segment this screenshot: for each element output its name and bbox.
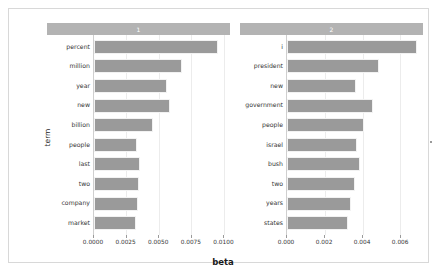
y-tick-label: israel: [240, 137, 286, 153]
x-axis: 0.00000.00250.00500.00750.0100: [93, 235, 230, 251]
bar: [287, 40, 417, 54]
x-tick-label: 0.0075: [181, 239, 201, 245]
bar: [94, 79, 167, 93]
bar-row: [94, 39, 230, 55]
x-tick-mark: [223, 235, 224, 238]
bar: [94, 138, 137, 152]
bar-series: [287, 35, 423, 235]
bar-row: [287, 196, 423, 212]
bar-row: [287, 78, 423, 94]
bar: [94, 118, 153, 132]
bar-row: [94, 58, 230, 74]
x-tick-mark: [158, 235, 159, 238]
x-tick-label: 0.004: [354, 239, 371, 245]
bar: [287, 59, 379, 73]
x-tick-label: 0.0050: [148, 239, 168, 245]
facet-panel-2: 2ipresidentnewgovernmentpeopleisraelbush…: [240, 23, 423, 251]
x-tick-mark: [362, 235, 363, 238]
bar: [94, 157, 140, 171]
bar: [287, 138, 357, 152]
bar: [287, 216, 348, 230]
bar-row: [287, 117, 423, 133]
y-tick-label: president: [240, 58, 286, 74]
bar: [287, 99, 373, 113]
page-frame: term 1percentmillionyearnewbillionpeople…: [8, 8, 429, 263]
bar-row: [287, 176, 423, 192]
y-tick-label: people: [47, 137, 93, 153]
bar: [287, 157, 360, 171]
x-tick-label: 0.0000: [83, 239, 103, 245]
x-tick-label: 0.0100: [213, 239, 233, 245]
bar-row: [287, 215, 423, 231]
bar-row: [287, 39, 423, 55]
bar-row: [287, 137, 423, 153]
x-axis: 0.0000.0020.0040.006: [286, 235, 423, 251]
y-tick-label: billion: [47, 117, 93, 133]
x-tick-mark: [126, 235, 127, 238]
y-tick-label: million: [47, 58, 93, 74]
bar-row: [94, 117, 230, 133]
bar-series: [94, 35, 230, 235]
bar-row: [94, 196, 230, 212]
chart-root: term 1percentmillionyearnewbillionpeople…: [0, 0, 441, 280]
y-tick-label: market: [47, 215, 93, 231]
x-tick-mark: [286, 235, 287, 238]
bar-row: [94, 215, 230, 231]
bar-row: [94, 78, 230, 94]
x-tick-mark: [324, 235, 325, 238]
y-tick-label: new: [47, 98, 93, 114]
y-tick-label: percent: [47, 39, 93, 55]
y-tick-label: i: [240, 39, 286, 55]
bar-row: [94, 176, 230, 192]
facet-body: percentmillionyearnewbillionpeoplelasttw…: [47, 35, 230, 235]
bar: [94, 197, 138, 211]
y-tick-label: government: [240, 98, 286, 114]
x-tick-label: 0.002: [316, 239, 333, 245]
bar-row: [94, 98, 230, 114]
decorative-dot: [430, 141, 432, 143]
bar: [287, 118, 364, 132]
facet-container: 1percentmillionyearnewbillionpeoplelastt…: [47, 23, 423, 251]
bar: [287, 177, 355, 191]
x-tick-mark: [191, 235, 192, 238]
bar-row: [94, 156, 230, 172]
bar: [94, 177, 139, 191]
y-tick-label: two: [47, 176, 93, 192]
y-tick-label: states: [240, 215, 286, 231]
bar-row: [287, 58, 423, 74]
bar-row: [94, 137, 230, 153]
bar: [94, 40, 218, 54]
bar-row: [287, 156, 423, 172]
y-tick-label: two: [240, 176, 286, 192]
bar: [287, 197, 351, 211]
bar: [94, 216, 136, 230]
plot-panel: [93, 35, 230, 235]
y-tick-label: last: [47, 156, 93, 172]
y-tick-label: year: [47, 78, 93, 94]
facet-strip-label: 1: [47, 23, 230, 35]
facet-strip-label: 2: [240, 23, 423, 35]
y-tick-label: bush: [240, 156, 286, 172]
facet-panel-1: 1percentmillionyearnewbillionpeoplelastt…: [47, 23, 230, 251]
y-tick-label: years: [240, 196, 286, 212]
y-tick-label: company: [47, 196, 93, 212]
x-tick-label: 0.000: [278, 239, 295, 245]
y-tick-label: people: [240, 117, 286, 133]
x-tick-label: 0.006: [392, 239, 409, 245]
bar: [287, 79, 356, 93]
y-tick-label: new: [240, 78, 286, 94]
facet-body: ipresidentnewgovernmentpeopleisraelbusht…: [240, 35, 423, 235]
y-tick-labels: ipresidentnewgovernmentpeopleisraelbusht…: [240, 35, 286, 235]
x-tick-label: 0.0025: [115, 239, 135, 245]
x-tick-mark: [93, 235, 94, 238]
bar-row: [287, 98, 423, 114]
bar: [94, 59, 182, 73]
plot-area: term 1percentmillionyearnewbillionpeople…: [23, 21, 423, 271]
bar: [94, 99, 170, 113]
plot-panel: [286, 35, 423, 235]
x-axis-title: beta: [23, 257, 423, 267]
x-tick-mark: [400, 235, 401, 238]
y-tick-labels: percentmillionyearnewbillionpeoplelasttw…: [47, 35, 93, 235]
